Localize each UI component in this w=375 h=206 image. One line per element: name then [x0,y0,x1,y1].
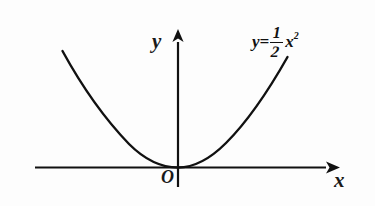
equation-fraction: 1 2 [270,25,283,60]
plot-canvas [0,0,375,206]
fraction-denominator: 2 [268,43,282,60]
equation-variable: x [285,33,294,50]
y-axis-label: y [152,31,161,52]
figure-background [0,0,375,206]
equation-equals-sign: = [260,33,270,50]
parabola-figure: y x O y= 1 2 x2 [0,0,375,206]
equation-exponent: 2 [294,31,299,41]
fraction-numerator: 1 [271,25,283,42]
equation-left-side: y [252,33,260,50]
equation-annotation: y= 1 2 x2 [252,24,299,59]
x-axis-label: x [334,170,345,191]
origin-label: O [161,168,174,186]
